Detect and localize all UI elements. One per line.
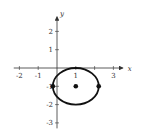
y-tick-label: 2 — [49, 28, 53, 36]
right-vertex-point — [96, 84, 101, 89]
y-tick-label: -2 — [46, 101, 53, 109]
y-tick-label: -3 — [46, 119, 53, 127]
center-point — [74, 84, 79, 89]
left-vertex-point — [51, 84, 56, 89]
x-tick-label: 1 — [74, 72, 78, 80]
x-tick-label: -1 — [35, 72, 42, 80]
x-tick-label: -2 — [16, 72, 23, 80]
y-axis-label: y — [59, 10, 65, 18]
x-axis-label: x — [128, 65, 132, 73]
x-tick-label: 3 — [111, 72, 115, 80]
y-tick-label: 1 — [49, 46, 53, 54]
ellipse-graph: xy-2-11321-1-2-3 — [0, 0, 141, 138]
axes: xy-2-11321-1-2-3 — [14, 10, 132, 129]
